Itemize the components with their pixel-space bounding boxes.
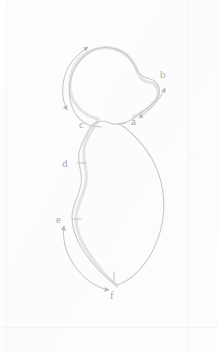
arrow-upper-left-arc xyxy=(63,47,88,110)
label-b: b xyxy=(160,69,166,80)
label-c: c xyxy=(79,119,84,130)
label-f: f xyxy=(110,290,114,301)
figure-canvas: a b c d e f xyxy=(0,0,218,352)
label-e: e xyxy=(56,214,61,225)
arrow-b-to-a-arc xyxy=(139,88,165,118)
arrow-layer xyxy=(0,0,218,352)
arrow-e-to-f-arc xyxy=(64,226,109,290)
label-a: a xyxy=(131,116,136,127)
label-d: d xyxy=(62,158,68,169)
